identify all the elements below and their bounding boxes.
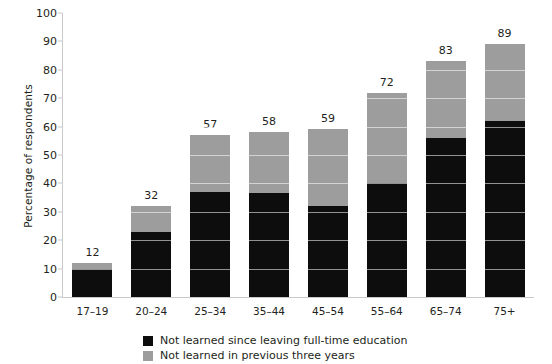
- y-tick-label: 0: [50, 291, 57, 304]
- y-tick-mark: [58, 297, 62, 298]
- bar-segment: [131, 206, 171, 232]
- stacked-bar: [308, 13, 348, 297]
- bar-value-label: 32: [144, 189, 158, 202]
- stacked-bar: [367, 13, 407, 297]
- bar-segment: [190, 192, 230, 297]
- y-tick-label: 50: [43, 149, 57, 162]
- x-tick-label: 25–34: [194, 305, 226, 317]
- bar-value-label: 72: [380, 76, 394, 89]
- x-tick-label: 17–19: [76, 305, 108, 317]
- y-tick-label: 30: [43, 205, 57, 218]
- bar-segment: [485, 44, 525, 121]
- legend-swatch-icon: [143, 336, 153, 346]
- x-tick-label: 55–64: [371, 305, 403, 317]
- bar-group: 83: [426, 13, 466, 297]
- y-tick-label: 40: [43, 177, 57, 190]
- plot-area: 0102030405060708090100 1232575859728389 …: [62, 13, 534, 297]
- bar-group: 12: [72, 13, 112, 297]
- bar-segment: [426, 61, 466, 138]
- y-tick-label: 60: [43, 120, 57, 133]
- bar-segment: [72, 269, 112, 297]
- bar-segment: [367, 93, 407, 184]
- x-tick-label: 45–54: [312, 305, 344, 317]
- x-tick-label: 20–24: [135, 305, 167, 317]
- x-tick-label: 65–74: [430, 305, 462, 317]
- bar-segment: [308, 206, 348, 297]
- y-tick-mark: [58, 183, 62, 184]
- bar-group: 59: [308, 13, 348, 297]
- chart-legend: Not learned since leaving full-time educ…: [143, 333, 407, 363]
- y-tick-mark: [58, 41, 62, 42]
- bar-segment: [249, 193, 289, 297]
- bar-value-label: 12: [85, 246, 99, 259]
- y-tick-mark: [58, 69, 62, 70]
- bar-series-layer: 1232575859728389: [63, 13, 534, 297]
- legend-item: Not learned in previous three years: [143, 348, 407, 363]
- legend-swatch-icon: [143, 351, 153, 361]
- y-tick-mark: [58, 98, 62, 99]
- legend-label: Not learned in previous three years: [160, 348, 355, 363]
- bar-group: 57: [190, 13, 230, 297]
- stacked-bar: [131, 13, 171, 297]
- y-tick-mark: [58, 240, 62, 241]
- bar-value-label: 57: [203, 118, 217, 131]
- bar-group: 72: [367, 13, 407, 297]
- y-tick-label: 100: [36, 7, 57, 20]
- y-tick-label: 80: [43, 63, 57, 76]
- y-tick-mark: [58, 155, 62, 156]
- bar-segment: [190, 135, 230, 192]
- y-tick-label: 20: [43, 234, 57, 247]
- bar-value-label: 83: [439, 44, 453, 57]
- y-tick-label: 90: [43, 35, 57, 48]
- chart-figure: Percentage of respondents 01020304050607…: [0, 0, 552, 364]
- stacked-bar: [190, 13, 230, 297]
- bar-segment: [485, 121, 525, 297]
- bar-value-label: 59: [321, 112, 335, 125]
- y-tick-mark: [58, 126, 62, 127]
- legend-item: Not learned since leaving full-time educ…: [143, 333, 407, 348]
- x-axis-line: [62, 297, 534, 298]
- legend-label: Not learned since leaving full-time educ…: [160, 333, 407, 348]
- bar-value-label: 89: [498, 27, 512, 40]
- bar-group: 58: [249, 13, 289, 297]
- bar-segment: [249, 132, 289, 193]
- bar-segment: [308, 129, 348, 206]
- y-axis-title: Percentage of respondents: [22, 56, 34, 256]
- y-tick-label: 10: [43, 262, 57, 275]
- stacked-bar: [485, 13, 525, 297]
- y-tick-label: 70: [43, 92, 57, 105]
- y-tick-mark: [58, 211, 62, 212]
- y-tick-mark: [58, 268, 62, 269]
- y-tick-mark: [58, 13, 62, 14]
- stacked-bar: [249, 13, 289, 297]
- bar-group: 89: [485, 13, 525, 297]
- bar-segment: [72, 263, 112, 269]
- x-tick-label: 75+: [493, 305, 515, 317]
- bar-value-label: 58: [262, 115, 276, 128]
- bar-group: 32: [131, 13, 171, 297]
- bar-segment: [367, 183, 407, 297]
- bar-segment: [131, 232, 171, 297]
- bar-segment: [426, 138, 466, 297]
- x-tick-label: 35–44: [253, 305, 285, 317]
